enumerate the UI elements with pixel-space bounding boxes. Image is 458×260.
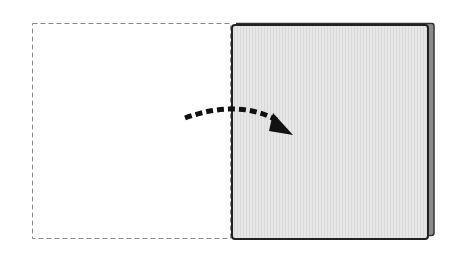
fold-diagram <box>0 0 458 260</box>
folded-sheet <box>232 25 428 239</box>
original-position-outline <box>33 24 231 239</box>
